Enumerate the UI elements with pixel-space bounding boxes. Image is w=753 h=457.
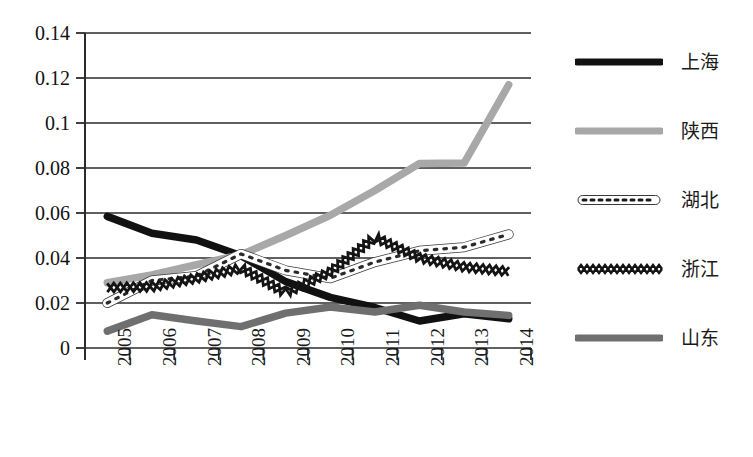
line-chart: 00.020.040.060.080.10.120.14 20052006200… [0,0,753,457]
y-axis-tick-label: 0.02 [8,293,70,313]
x-axis-tick-label: 2006 [160,328,179,366]
legend-label-shanghai: 上海 [681,53,719,72]
plot-svg [0,0,560,457]
legend-swatch-shanghai [575,52,663,72]
legend-label-hubei: 湖北 [681,191,719,210]
x-axis-tick-label: 2014 [517,328,536,366]
legend-label-shaanxi: 陕西 [681,122,719,141]
y-axis-tick-label: 0.06 [8,203,70,223]
legend-swatch-hubei [575,190,663,210]
series-浙江 [107,234,509,295]
legend-item-shaanxi[interactable]: 陕西 [575,111,753,151]
y-axis-tick-label: 0.04 [8,248,70,268]
legend-swatch-shandong [575,328,663,348]
x-axis-tick-label: 2009 [294,328,313,366]
legend-item-hubei[interactable]: 湖北 [575,180,753,220]
y-axis-tick-label: 0.08 [8,158,70,178]
x-axis-tick-label: 2011 [383,329,402,366]
gridlines [76,33,531,348]
y-axis-tick-label: 0.1 [8,113,70,133]
y-axis-tick-label: 0.12 [8,68,70,88]
legend-item-shandong[interactable]: 山东 [575,318,753,358]
x-axis-tick-label: 2005 [115,328,134,366]
x-axis-tick-label: 2007 [205,328,224,366]
x-axis-tick-label: 2013 [472,328,491,366]
x-axis-tick-label: 2008 [249,328,268,366]
y-axis-tick-label: 0 [8,338,70,358]
legend: 上海 陕西 湖北 浙江 [575,0,753,360]
plot-area: 00.020.040.060.080.10.120.14 20052006200… [0,0,560,457]
legend-label-shandong: 山东 [681,329,719,348]
legend-swatch-zhejiang [575,259,663,279]
series-lines [107,85,509,331]
legend-item-shanghai[interactable]: 上海 [575,42,753,82]
y-axis-tick-label: 0.14 [8,23,70,43]
x-axis-tick-label: 2010 [338,328,357,366]
legend-item-zhejiang[interactable]: 浙江 [575,249,753,289]
x-axis-tick-label: 2012 [428,328,447,366]
legend-label-zhejiang: 浙江 [681,260,719,279]
legend-swatch-shaanxi [575,121,663,141]
